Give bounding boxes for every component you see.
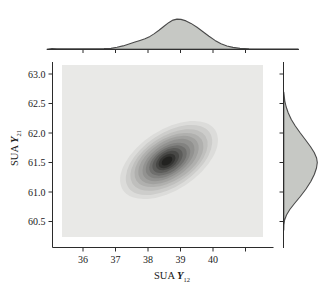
right-marginal-plot — [280, 62, 318, 248]
x-tick-label: 40 — [208, 254, 218, 265]
x-tick-label: 38 — [143, 254, 153, 265]
right-marginal-density-curve — [284, 92, 318, 230]
main-plot: 63.0 62.5 62.0 61.5 61.0 60.5 36 37 38 3… — [9, 62, 274, 283]
y-tick-label: 60.5 — [28, 216, 46, 227]
figure-canvas: 63.0 62.5 62.0 61.5 61.0 60.5 36 37 38 3… — [0, 0, 332, 293]
x-tick-label: 37 — [111, 254, 121, 265]
y-tick-label: 62.0 — [28, 128, 46, 139]
y-axis-title-prefix: SUA — [9, 143, 20, 166]
x-axis-title-prefix: SUA — [154, 270, 177, 281]
x-tick-label: 39 — [176, 254, 186, 265]
y-tick-label: 61.5 — [28, 157, 46, 168]
x-tick-label: 36 — [78, 254, 88, 265]
y-tick-label: 62.5 — [28, 98, 46, 109]
y-tick-label: 63.0 — [28, 69, 46, 80]
x-axis-title-subscript: 12 — [183, 276, 190, 283]
top-marginal-density-curve — [47, 19, 298, 49]
joint-density-figure: 63.0 62.5 62.0 61.5 61.0 60.5 36 37 38 3… — [0, 0, 332, 293]
y-axis-title: SUA Y21 — [9, 130, 22, 166]
top-marginal-plot — [47, 19, 299, 53]
x-axis-title: SUA Y12 — [154, 270, 190, 283]
y-axis-title-subscript: 21 — [15, 130, 22, 137]
y-tick-label: 61.0 — [28, 187, 46, 198]
